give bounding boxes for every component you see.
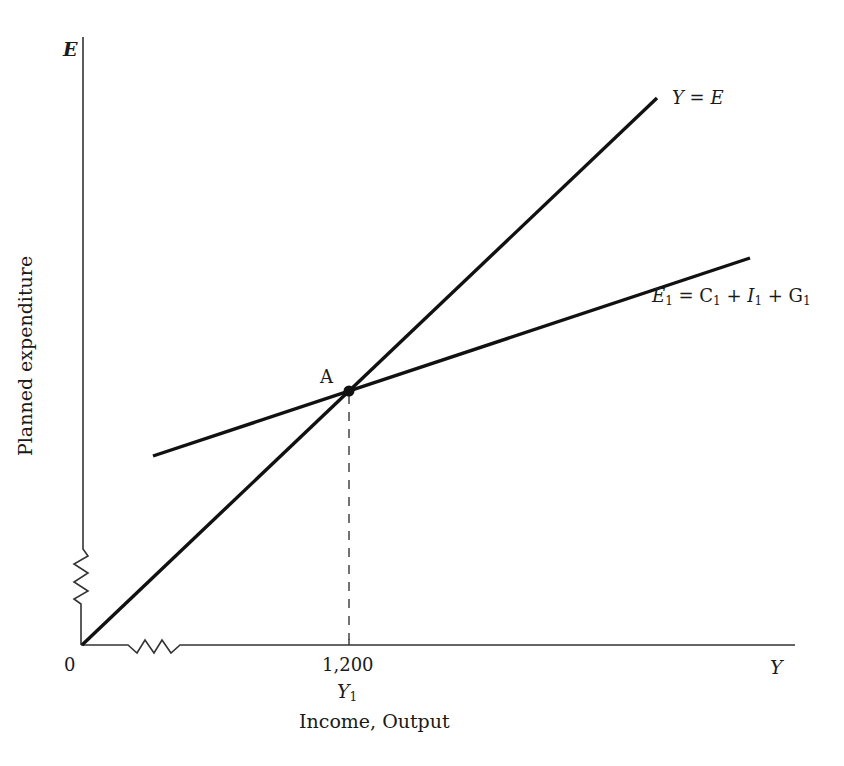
y-axis-label: Planned expenditure (14, 256, 36, 456)
y-axis-symbol: E (63, 38, 77, 60)
line-e1-label: E1 = C1 + I1 + G1 (652, 285, 811, 308)
point-a-marker (344, 386, 355, 397)
ye-rhs: E (710, 87, 723, 108)
y1-symbol: Y (337, 680, 350, 702)
origin-label: 0 (64, 654, 75, 675)
line-y-equals-e-label: Y = E (672, 87, 724, 108)
x-tick-label: 1,200 (322, 654, 374, 675)
e1-g-sub: 1 (803, 294, 811, 308)
e1-c: C (699, 285, 713, 306)
e1-plus2: + (762, 285, 789, 306)
chart-canvas (0, 0, 844, 766)
e1-g: G (789, 285, 803, 306)
e1-eq: = (673, 285, 700, 306)
y-axis (74, 37, 88, 645)
ye-lhs: Y (672, 87, 684, 108)
y1-subscript: 1 (350, 690, 358, 704)
e1-plus1: + (721, 285, 748, 306)
e1-e-sub: 1 (665, 294, 673, 308)
x-tick-symbol: Y1 (337, 680, 357, 704)
ye-eq: = (684, 87, 711, 108)
point-a-label: A (320, 366, 333, 387)
x-axis-label: Income, Output (299, 710, 450, 732)
e1-i-sub: 1 (754, 294, 762, 308)
x-axis-symbol: Y (770, 656, 783, 678)
e1-e: E (652, 285, 665, 306)
e1-c-sub: 1 (713, 294, 721, 308)
x-axis (81, 640, 795, 653)
line-y-equals-e (82, 98, 657, 645)
